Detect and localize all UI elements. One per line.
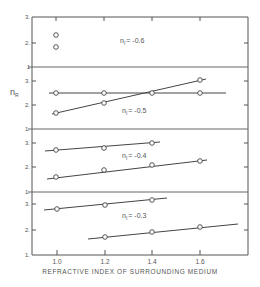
panel-label: nI= -0.6 (120, 37, 144, 46)
x-tick-labels: 1.0 1.2 1.4 1.6 (52, 258, 204, 265)
svg-text:2.: 2. (25, 40, 30, 46)
svg-text:1.4: 1.4 (147, 258, 156, 265)
data-point (54, 33, 59, 38)
svg-text:3.: 3. (25, 14, 30, 20)
panel-label: nI= -0.3 (122, 212, 146, 221)
svg-text:3.: 3. (25, 78, 30, 84)
svg-text:3.: 3. (25, 140, 30, 146)
y-ticks (32, 43, 248, 230)
svg-text:1.6: 1.6 (195, 258, 204, 265)
y-axis-title: nR (10, 87, 19, 98)
series-line-lower (47, 160, 207, 179)
top-ticks (56, 17, 200, 21)
y-tick-labels: 3. 2. 1 3. 2. 1. 3. 2. 1. 3. 2. 1. (25, 14, 31, 258)
panel-label: nI= -0.5 (122, 107, 146, 116)
panel-label: nI= -0.4 (122, 152, 146, 161)
panel-n-i-minus-0-6: nI= -0.6 (54, 33, 145, 50)
svg-text:2.: 2. (25, 102, 30, 108)
panel-n-i-minus-0-5: nI= -0.5 (49, 78, 226, 116)
svg-text:2.: 2. (25, 164, 30, 170)
panel-n-i-minus-0-3: nI= -0.3 (44, 198, 238, 240)
svg-text:3.: 3. (25, 201, 30, 207)
svg-text:2.: 2. (25, 227, 30, 233)
svg-text:1.: 1. (25, 252, 30, 258)
svg-text:1.: 1. (25, 189, 30, 195)
series-line-lower (88, 224, 238, 239)
data-point (54, 45, 59, 50)
svg-text:1.: 1. (25, 126, 30, 132)
svg-text:1.2: 1.2 (100, 258, 109, 265)
panel-n-i-minus-0-4: nI= -0.4 (45, 141, 207, 180)
bottom-ticks (57, 250, 200, 255)
x-axis-title: REFRACTIVE INDEX OF SURROUNDING MEDIUM (42, 268, 218, 275)
chart-figure: 3. 2. 1 3. 2. 1. 3. 2. 1. 3. 2. 1. nR 1.… (0, 0, 260, 287)
svg-text:1.0: 1.0 (52, 258, 61, 265)
